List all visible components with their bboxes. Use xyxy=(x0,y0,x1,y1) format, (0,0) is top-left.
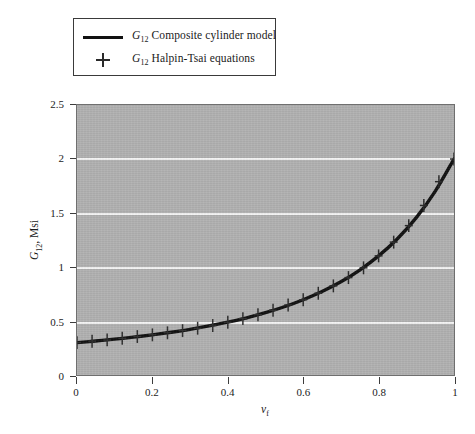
x-axis-tick xyxy=(455,377,456,384)
legend-text-composite: Composite cylinder model xyxy=(152,29,276,41)
plus-marker xyxy=(88,335,96,348)
plus-marker xyxy=(344,271,352,284)
y-axis-tick-label: 2.5 xyxy=(50,98,64,110)
plus-marker xyxy=(103,333,111,346)
plus-marker xyxy=(77,336,81,349)
plus-marker xyxy=(254,308,262,321)
y-axis-tick xyxy=(70,104,76,105)
x-axis-tick-label: 0.8 xyxy=(372,386,386,398)
plus-marker xyxy=(118,332,126,345)
y-axis-tick xyxy=(70,267,76,268)
y-axis-tick xyxy=(70,213,76,214)
chart-legend: G12 Composite cylinder model G12 Halpin-… xyxy=(73,18,276,76)
y-axis-subscript: 12 xyxy=(35,244,44,252)
y-axis-symbol: G xyxy=(28,252,40,260)
legend-symbol-sub-12: 12 xyxy=(140,36,148,45)
y-axis-tick-label: 0.5 xyxy=(50,316,64,328)
plus-marker xyxy=(314,287,322,300)
y-axis-title: G12, Msi xyxy=(28,220,43,260)
legend-line-swatch-icon xyxy=(74,36,132,39)
plus-marker xyxy=(194,322,202,335)
y-axis-unit: , Msi xyxy=(28,220,40,244)
plus-marker xyxy=(224,316,232,329)
x-axis-tick-label: 0.2 xyxy=(145,386,159,398)
plot-area xyxy=(76,104,455,376)
y-axis-tick xyxy=(70,322,76,323)
legend-plus-marker-icon xyxy=(74,53,132,67)
y-axis-tick-label: 1 xyxy=(59,261,65,273)
plus-marker xyxy=(269,304,277,317)
x-axis-tick xyxy=(76,377,77,384)
x-axis-tick-label: 0 xyxy=(73,386,79,398)
plus-marker xyxy=(133,330,141,343)
plus-marker xyxy=(164,326,172,339)
figure-canvas: G12 Composite cylinder model G12 Halpin-… xyxy=(0,0,475,434)
halpin-tsai-plus-markers xyxy=(77,153,454,350)
x-axis-tick xyxy=(379,377,380,384)
x-axis-tick-label: 1 xyxy=(452,386,458,398)
legend-label-composite-cylinder-model: G12 Composite cylinder model xyxy=(132,29,276,44)
plus-marker xyxy=(239,312,247,325)
y-axis-tick-label: 1.5 xyxy=(50,207,64,219)
y-axis-tick-label: 2 xyxy=(59,152,65,164)
legend-item-halpin-tsai-equations: G12 Halpin-Tsai equations xyxy=(74,49,275,71)
x-axis-tick xyxy=(228,377,229,384)
legend-text-halpin: Halpin-Tsai equations xyxy=(152,52,255,64)
legend-label-halpin-tsai-equations: G12 Halpin-Tsai equations xyxy=(132,52,255,67)
plus-marker xyxy=(299,293,307,306)
x-axis-title: vf xyxy=(261,403,269,418)
y-axis-tick xyxy=(70,158,76,159)
plus-marker xyxy=(329,279,337,292)
x-axis-tick-label: 0.6 xyxy=(297,386,311,398)
plus-marker xyxy=(435,175,443,188)
x-axis-tick xyxy=(303,377,304,384)
x-axis-tick xyxy=(152,377,153,384)
plus-marker xyxy=(209,319,217,332)
composite-cylinder-model-curve xyxy=(77,159,454,343)
x-axis-subscript: f xyxy=(266,409,269,418)
data-curve-svg xyxy=(77,105,454,375)
x-axis-tick-label: 0.4 xyxy=(221,386,235,398)
plus-marker xyxy=(148,328,156,341)
y-axis-tick xyxy=(70,376,76,377)
legend-item-composite-cylinder-model: G12 Composite cylinder model xyxy=(74,26,275,48)
plus-marker xyxy=(284,299,292,312)
legend-symbol-sub-12-2: 12 xyxy=(140,59,148,68)
plus-marker xyxy=(179,324,187,337)
y-axis-tick-label: 0 xyxy=(59,370,65,382)
